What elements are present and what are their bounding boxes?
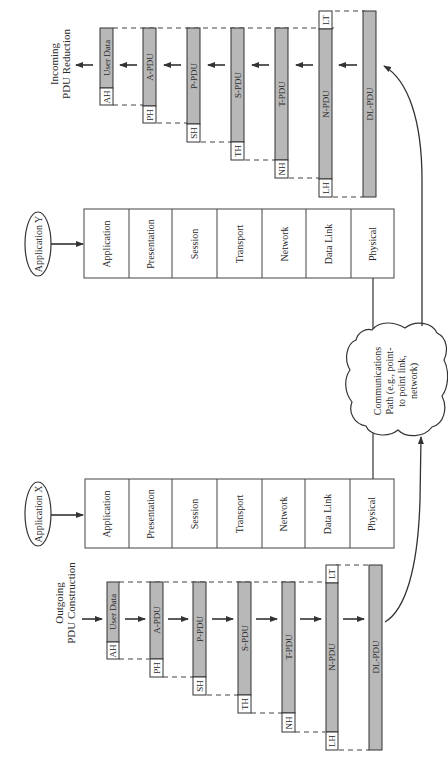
- svg-text:A-PDU: A-PDU: [152, 606, 162, 634]
- svg-text:P-PDU: P-PDU: [189, 63, 199, 90]
- x-layer-session: Session: [189, 499, 200, 530]
- outgoing-pdu-t: NH T-PDU: [282, 582, 295, 732]
- svg-text:LH: LH: [321, 182, 331, 194]
- outgoing-pdu-s: TH S-PDU: [238, 582, 251, 713]
- incoming-title-line2: PDU Reduction: [60, 29, 72, 99]
- x-layer-network: Network: [278, 497, 289, 532]
- outgoing-pdu-p: SH P-PDU: [193, 582, 206, 695]
- incoming-pdu-user-data: AH User Data: [100, 28, 113, 105]
- x-layer-presentation: Presentation: [145, 489, 156, 538]
- y-layer-data-link: Data Link: [323, 224, 334, 264]
- svg-text:DL-PDU: DL-PDU: [371, 640, 381, 673]
- svg-text:N-PDU: N-PDU: [327, 643, 337, 671]
- incoming-pdu-a: PH A-PDU: [143, 28, 156, 123]
- outgoing-pdu-a: PH A-PDU: [150, 582, 163, 677]
- application-x-label: Application X: [33, 485, 44, 543]
- y-layer-transport: Transport: [234, 225, 245, 264]
- svg-text:T-PDU: T-PDU: [277, 81, 287, 107]
- x-layer-physical: Physical: [366, 497, 377, 531]
- svg-text:User Data: User Data: [108, 594, 118, 630]
- svg-text:User Data: User Data: [102, 40, 112, 76]
- incoming-pdu-n: LT LH N-PDU: [319, 11, 332, 197]
- svg-text:LH: LH: [327, 735, 337, 747]
- svg-text:S-PDU: S-PDU: [233, 72, 243, 99]
- incoming-title-line1: Incoming: [48, 42, 60, 85]
- y-layer-network: Network: [279, 227, 290, 262]
- svg-text:T-PDU: T-PDU: [284, 634, 294, 660]
- svg-text:SH: SH: [195, 680, 205, 692]
- outgoing-pdu-user-data: AH User Data: [107, 582, 119, 659]
- svg-text:TH: TH: [233, 145, 243, 157]
- svg-text:SH: SH: [189, 127, 199, 139]
- cloud-line-4: network): [408, 363, 420, 399]
- y-layer-session: Session: [189, 229, 200, 260]
- svg-text:LT: LT: [327, 568, 337, 579]
- svg-text:NH: NH: [284, 716, 294, 729]
- incoming-pdu-dl: DL-PDU: [363, 11, 376, 197]
- svg-text:AH: AH: [102, 90, 112, 103]
- svg-text:AH: AH: [108, 644, 118, 657]
- svg-text:PH: PH: [145, 109, 155, 121]
- incoming-pdu-p: SH P-PDU: [187, 28, 200, 142]
- svg-text:DL-PDU: DL-PDU: [365, 87, 375, 120]
- cloud-line-1: Communications: [372, 347, 383, 415]
- outgoing-pdu-dl: DL-PDU: [369, 565, 382, 750]
- x-layer-transport: Transport: [234, 495, 245, 534]
- outgoing-pdu-n: LT LH N-PDU: [326, 565, 338, 750]
- x-layer-application: Application: [101, 490, 112, 537]
- svg-text:TH: TH: [240, 698, 250, 710]
- y-layer-physical: Physical: [367, 227, 378, 261]
- svg-text:S-PDU: S-PDU: [240, 625, 250, 652]
- y-layer-presentation: Presentation: [145, 219, 156, 268]
- application-y-label: Application Y: [33, 216, 44, 273]
- cloud-line-2: Path (e.g., point-: [384, 348, 396, 415]
- cloud-line-3: to point link,: [396, 355, 407, 406]
- outgoing-title-line1: Outgoing: [53, 582, 65, 624]
- incoming-pdu-t: NH T-PDU: [275, 28, 288, 178]
- y-layer-application: Application: [101, 220, 112, 267]
- svg-text:P-PDU: P-PDU: [195, 616, 205, 643]
- svg-text:N-PDU: N-PDU: [321, 90, 331, 118]
- outgoing-pdu-construction: Outgoing PDU Construction AH User Data P…: [53, 562, 382, 750]
- svg-text:LT: LT: [321, 14, 331, 25]
- svg-text:PH: PH: [152, 662, 162, 674]
- application-y-stack: Application Y Application Presentation S…: [25, 209, 394, 278]
- incoming-pdu-s: TH S-PDU: [231, 28, 244, 160]
- outgoing-title-line2: PDU Construction: [65, 562, 77, 644]
- incoming-pdu-reduction: Incoming PDU Reduction AH User Data PH A…: [48, 11, 376, 197]
- svg-text:NH: NH: [277, 162, 287, 175]
- svg-text:A-PDU: A-PDU: [145, 53, 155, 81]
- osi-pdu-diagram: Incoming PDU Reduction AH User Data PH A…: [0, 0, 448, 767]
- application-x-stack: Application X Application Presentation S…: [25, 479, 394, 548]
- x-layer-data-link: Data Link: [322, 494, 333, 534]
